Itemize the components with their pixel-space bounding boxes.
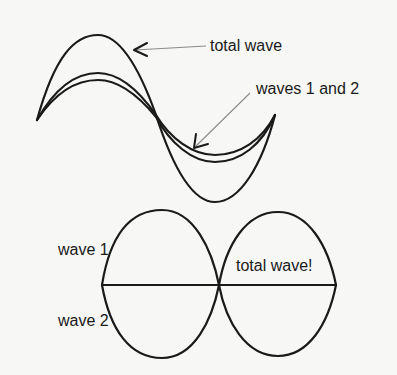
wave-2-curve bbox=[102, 285, 336, 358]
constructive-interference-diagram bbox=[37, 35, 275, 202]
total-wave-pointer-line bbox=[135, 46, 206, 50]
destructive-interference-diagram bbox=[102, 210, 336, 358]
waves-1-2-pointer-line bbox=[196, 93, 250, 146]
total-wave-cancelled-label: total wave! bbox=[236, 258, 312, 274]
wave-interference-figure: total wave waves 1 and 2 wave 1 wave 2 t… bbox=[0, 0, 397, 375]
total-wave-label: total wave bbox=[210, 38, 282, 54]
wave-2-label: wave 2 bbox=[58, 313, 109, 329]
waves-1-and-2-label: waves 1 and 2 bbox=[256, 81, 359, 97]
wave-1-label: wave 1 bbox=[58, 242, 109, 258]
